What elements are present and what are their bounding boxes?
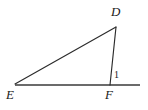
angle-label-1: 1 [114,70,119,80]
vertex-label-f: F [105,88,113,101]
geometry-figure: D E F 1 [0,0,148,110]
triangle-diagram [0,0,148,110]
vertex-label-e: E [6,88,14,101]
vertex-label-d: D [111,5,120,18]
segment-ED [15,27,116,84]
